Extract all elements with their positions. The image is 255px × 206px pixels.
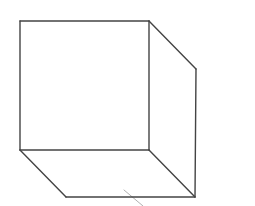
cube-diagram	[0, 0, 255, 206]
top-right-depth-edge	[149, 21, 196, 69]
bottom-right-depth-edge	[149, 150, 195, 197]
cube-wireframe	[0, 0, 255, 206]
bottom-left-depth-edge	[20, 150, 66, 197]
back-right-edge	[195, 69, 196, 197]
tick-mark	[124, 190, 143, 206]
